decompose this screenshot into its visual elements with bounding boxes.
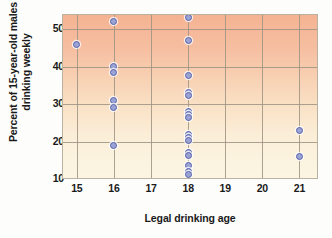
x-tick-label: 15 — [62, 182, 92, 194]
gridline-horizontal — [62, 67, 318, 68]
data-point — [185, 137, 192, 144]
x-tick-label: 18 — [173, 182, 203, 194]
y-tick-label: 30 — [34, 97, 64, 109]
x-axis-title: Legal drinking age — [60, 212, 320, 224]
gridline-vertical — [225, 14, 226, 179]
data-point — [185, 37, 192, 44]
plot-area — [62, 14, 318, 179]
x-tick-label: 16 — [99, 182, 129, 194]
data-point — [296, 153, 303, 160]
data-point — [185, 92, 192, 99]
data-point — [296, 127, 303, 134]
x-tick-label: 17 — [136, 182, 166, 194]
gridline-vertical — [262, 14, 263, 179]
y-tick-label: 40 — [34, 60, 64, 72]
data-point — [185, 171, 192, 178]
y-axis-title-line1: Percent of 15-year-old males — [7, 0, 20, 157]
x-tick-label: 20 — [247, 182, 277, 194]
x-tick-label: 21 — [284, 182, 314, 194]
data-point — [185, 114, 192, 121]
y-tick-label: 20 — [34, 135, 64, 147]
data-point — [185, 72, 192, 79]
gridline-vertical — [77, 14, 78, 179]
data-point — [185, 14, 192, 21]
y-axis-title-line2: drinking weekly — [20, 0, 33, 157]
y-tick-label: 10 — [34, 172, 64, 184]
data-point — [185, 152, 192, 159]
gridline-horizontal — [62, 104, 318, 105]
data-point — [73, 41, 80, 48]
gridline-horizontal — [62, 29, 318, 30]
gridline-vertical — [151, 14, 152, 179]
y-tick-label: 50 — [34, 22, 64, 34]
scatter-chart-figure: Percent of 15-year-old males drinking we… — [0, 0, 332, 238]
x-tick-label: 19 — [210, 182, 240, 194]
